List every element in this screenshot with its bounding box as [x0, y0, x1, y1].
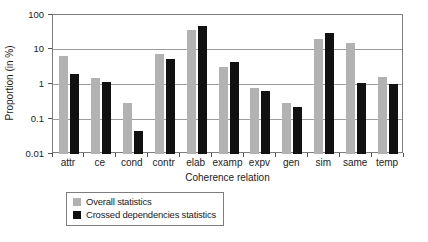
bar-ce-crossed [102, 82, 111, 154]
chart-figure: Proportion (in %) Coherence relation Ove… [0, 0, 428, 242]
bar-elab-overall [187, 30, 196, 154]
y-tick-100 [48, 14, 52, 15]
x-tick [243, 153, 244, 157]
x-tick [83, 153, 84, 157]
x-tick-label-temp: temp [365, 157, 409, 168]
legend-label-crossed: Crossed dependencies statistics [86, 209, 216, 221]
legend: Overall statistics Crossed dependencies … [66, 192, 224, 226]
x-tick [211, 153, 212, 157]
x-axis-title: Coherence relation [52, 172, 403, 184]
bar-temp-overall [378, 77, 387, 154]
bar-attr-overall [59, 56, 68, 154]
bar-attr-crossed [70, 74, 79, 154]
bar-expv-crossed [261, 91, 270, 154]
bar-cond-crossed [134, 131, 143, 154]
bar-examp-crossed [230, 62, 239, 154]
y-tick-label-0.1: 0.1 [0, 113, 44, 124]
bar-examp-overall [219, 67, 228, 154]
bar-temp-crossed [389, 84, 398, 154]
x-tick [307, 153, 308, 157]
legend-label-overall: Overall statistics [86, 196, 152, 208]
bar-same-overall [346, 43, 355, 154]
bar-expv-overall [250, 88, 259, 154]
x-tick [403, 153, 404, 157]
bar-contr-overall [155, 54, 164, 154]
legend-item-crossed: Crossed dependencies statistics [73, 209, 216, 221]
x-tick [179, 153, 180, 157]
bar-sim-overall [314, 39, 323, 154]
x-tick [371, 153, 372, 157]
y-tick-1 [48, 83, 52, 84]
legend-item-overall: Overall statistics [73, 196, 216, 208]
y-tick-label-1: 1 [0, 78, 44, 89]
bar-gen-overall [282, 103, 291, 154]
x-tick [52, 153, 53, 157]
bar-ce-overall [91, 78, 100, 154]
x-tick [115, 153, 116, 157]
legend-swatch-crossed-icon [73, 211, 81, 219]
x-tick [339, 153, 340, 157]
y-tick-label-10: 10 [0, 43, 44, 54]
bar-gen-crossed [293, 107, 302, 154]
y-tick-label-0.01: 0.01 [0, 148, 44, 159]
y-tick-10 [48, 48, 52, 49]
y-tick-label-100: 100 [0, 9, 44, 20]
plot-area [52, 14, 403, 153]
bar-same-crossed [357, 83, 366, 154]
y-tick-0.1 [48, 118, 52, 119]
bar-sim-crossed [325, 33, 334, 154]
bar-cond-overall [123, 103, 132, 154]
x-tick [275, 153, 276, 157]
bar-elab-crossed [198, 26, 207, 154]
x-tick [147, 153, 148, 157]
legend-swatch-overall-icon [73, 198, 81, 206]
bar-contr-crossed [166, 59, 175, 154]
